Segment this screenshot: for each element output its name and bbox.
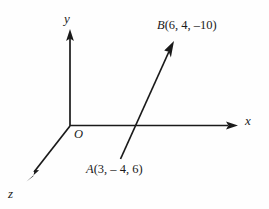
- origin-label: O: [74, 128, 83, 141]
- point-b-label: B(6, 4, –10): [157, 19, 217, 32]
- vector-ab-line: [121, 52, 170, 160]
- x-axis-label: x: [245, 114, 251, 127]
- z-axis-line: [34, 126, 70, 172]
- vector-ab-arrowhead: [164, 41, 174, 58]
- axes-diagram: [0, 0, 269, 209]
- point-name-italic: B: [157, 18, 165, 32]
- z-axis-arrowhead: [27, 170, 40, 181]
- z-axis-label: z: [8, 187, 13, 200]
- point-name-italic: A: [86, 162, 94, 176]
- figure-canvas: y x z O B(6, 4, –10) A(3, – 4, 6): [0, 0, 269, 209]
- point-a-label: A(3, – 4, 6): [86, 163, 143, 176]
- y-axis-label: y: [64, 12, 70, 25]
